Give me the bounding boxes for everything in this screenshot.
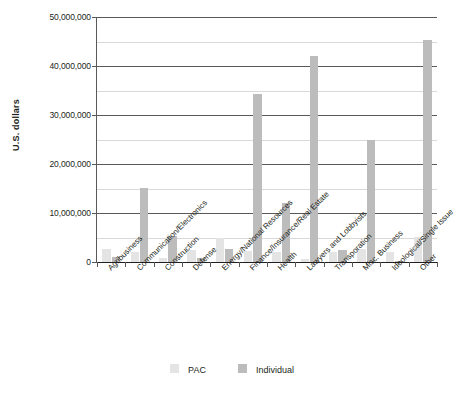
y-tick-label: 50,000,000 bbox=[5, 12, 91, 22]
x-axis-labels: AgribusinessCommunication/ElectronicsCon… bbox=[96, 266, 464, 366]
bar-pac bbox=[272, 252, 280, 262]
legend-swatch bbox=[170, 364, 179, 373]
y-tick-label: 10,000,000 bbox=[5, 208, 91, 218]
legend-swatch bbox=[238, 364, 247, 373]
bar-group bbox=[380, 17, 408, 262]
bar-pac bbox=[386, 252, 394, 262]
bar-individual bbox=[367, 140, 375, 262]
bar-group bbox=[125, 17, 153, 262]
legend-entry: Individual bbox=[238, 364, 294, 375]
chart-legend: PACIndividual bbox=[0, 364, 464, 375]
bar-individual bbox=[310, 56, 318, 262]
bar-pac bbox=[131, 252, 139, 262]
y-tick-label: 40,000,000 bbox=[5, 61, 91, 71]
legend-entry: PAC bbox=[170, 364, 206, 375]
legend-label: PAC bbox=[188, 365, 206, 375]
legend-label: Individual bbox=[256, 365, 294, 375]
y-tick-label: 30,000,000 bbox=[5, 110, 91, 120]
bar-chart-figure: U.S. dollars 010,000,00020,000,00030,000… bbox=[0, 0, 464, 397]
y-tick-label: 0 bbox=[5, 257, 91, 267]
bar-pac bbox=[102, 249, 110, 262]
bar-group bbox=[210, 17, 238, 262]
bar-group bbox=[97, 17, 125, 262]
y-tick-label: 20,000,000 bbox=[5, 159, 91, 169]
bar-pac bbox=[329, 252, 337, 262]
bar-individual bbox=[140, 188, 148, 262]
